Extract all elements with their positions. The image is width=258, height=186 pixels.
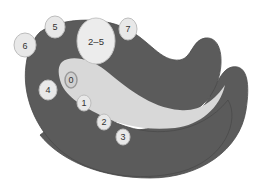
marker-0-label: 0 [68,75,73,85]
marker-5-label: 5 [52,22,57,32]
marker-0[interactable]: 0 [65,72,77,88]
marker-5[interactable]: 5 [45,16,65,38]
marker-2-5-label: 2–5 [88,36,104,47]
marker-7[interactable]: 7 [119,18,137,40]
marker-6-label: 6 [22,41,27,51]
marker-2-label: 2 [101,117,106,127]
diagram-canvas: 6 5 2–5 7 4 0 1 2 3 [0,0,258,186]
marker-3-label: 3 [120,132,125,142]
marker-1[interactable]: 1 [77,95,91,111]
marker-2-5[interactable]: 2–5 [77,18,115,64]
marker-6[interactable]: 6 [14,33,36,57]
marker-7-label: 7 [125,24,130,34]
marker-2[interactable]: 2 [97,114,111,130]
marker-4-label: 4 [45,85,50,95]
marker-3[interactable]: 3 [116,129,130,145]
marker-4[interactable]: 4 [39,80,57,100]
marker-1-label: 1 [81,98,86,108]
